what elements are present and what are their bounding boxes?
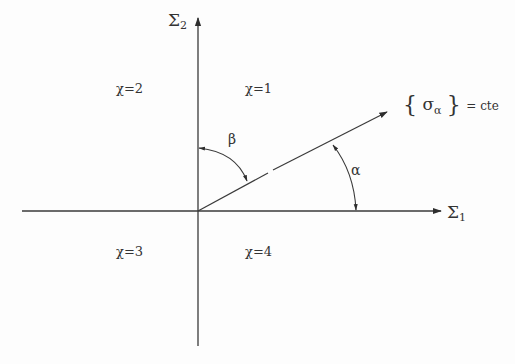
- vertical-axis-label: Σ2: [168, 12, 187, 31]
- horizontal-axis-label: Σ1: [447, 204, 466, 223]
- quadrant-4-label: χ=4: [245, 245, 272, 258]
- diagram-canvas: Σ2 Σ1 χ=1 χ=2 χ=3 χ=4 { σα } = cte β α: [0, 0, 515, 364]
- beta-angle-arc: [199, 148, 247, 181]
- ray-label: { σα } = cte: [403, 94, 499, 116]
- diagram-lines: [0, 0, 515, 364]
- ray-segment-upper: [273, 112, 387, 170]
- beta-angle-label: β: [228, 132, 236, 146]
- ray-segment-lower: [198, 173, 268, 211]
- quadrant-2-label: χ=2: [116, 82, 143, 95]
- alpha-angle-label: α: [351, 163, 360, 177]
- quadrant-3-label: χ=3: [116, 245, 143, 258]
- quadrant-1-label: χ=1: [245, 82, 272, 95]
